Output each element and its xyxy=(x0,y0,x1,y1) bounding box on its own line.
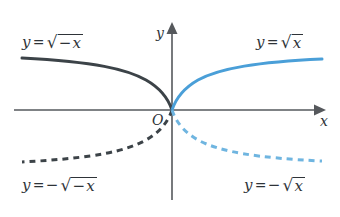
label-lhs: y xyxy=(244,178,253,193)
square-root-graph-figure: y = √ −x y = √ x y = − √ −x xyxy=(0,0,340,217)
inner-minus-sign: − xyxy=(72,177,85,195)
radicand: −x xyxy=(58,34,83,51)
equals-sign: = xyxy=(255,178,267,192)
equals-sign: = xyxy=(267,35,279,49)
label-lhs: y xyxy=(256,35,265,50)
radicand-variable: x xyxy=(86,177,95,195)
y-axis-arrowhead xyxy=(167,22,178,34)
y-axis-label: y xyxy=(156,26,164,40)
curve-sqrt-neg-x xyxy=(22,58,172,110)
curve-neg-sqrt-x xyxy=(172,110,322,161)
curve-neg-sqrt-neg-x xyxy=(22,110,172,162)
radical-icon: √ xyxy=(60,177,71,195)
radical-icon: √ xyxy=(282,177,293,195)
origin-label: O xyxy=(152,113,164,127)
radicand-variable: x xyxy=(294,177,303,195)
curve-sqrt-x xyxy=(172,59,322,110)
inner-minus-sign: − xyxy=(59,34,72,52)
radicand: x xyxy=(292,34,304,51)
label-y-equals-neg-sqrt-neg-x: y = − √ −x xyxy=(22,176,97,194)
radicand-variable: x xyxy=(72,34,81,52)
outer-minus-sign: − xyxy=(46,178,59,193)
radical-group: √ −x xyxy=(60,176,97,194)
equals-sign: = xyxy=(33,178,45,192)
equals-sign: = xyxy=(33,35,45,49)
radicand: x xyxy=(293,177,305,194)
radical-group: √ x xyxy=(282,176,305,194)
label-lhs: y xyxy=(22,35,31,50)
radical-icon: √ xyxy=(281,34,292,52)
radical-icon: √ xyxy=(47,34,58,52)
label-y-equals-neg-sqrt-x: y = − √ x xyxy=(244,176,305,194)
label-y-equals-sqrt-neg-x: y = √ −x xyxy=(22,33,83,51)
radical-group: √ x xyxy=(281,33,304,51)
radicand-variable: x xyxy=(293,34,302,52)
radicand: −x xyxy=(71,177,96,194)
radical-group: √ −x xyxy=(47,33,84,51)
label-lhs: y xyxy=(22,178,31,193)
x-axis-label: x xyxy=(320,114,328,128)
outer-minus-sign: − xyxy=(268,178,281,193)
label-y-equals-sqrt-x: y = √ x xyxy=(256,33,303,51)
